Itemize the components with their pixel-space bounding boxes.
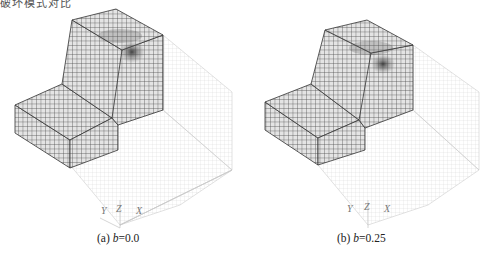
- axis-label-z: Z: [116, 203, 122, 214]
- caption-b: (b) b=0.25: [337, 232, 386, 244]
- caption-a-value: =0.0: [118, 232, 139, 244]
- axis-label-z: Z: [364, 201, 370, 212]
- damage-zone: [119, 41, 145, 63]
- axis-label-y: Y: [101, 205, 107, 216]
- caption-a: (a) b=0.0: [97, 232, 139, 244]
- damage-zone: [371, 54, 395, 74]
- mesh-model-b: [243, 0, 486, 253]
- caption-b-value: =0.25: [359, 232, 386, 244]
- caption-a-label: (a): [97, 232, 113, 244]
- axis-label-x: X: [136, 205, 142, 216]
- figure-a: Y Z X (a) b=0.0: [0, 0, 243, 253]
- axis-label-y: Y: [347, 203, 353, 214]
- mesh-model-a: [0, 0, 243, 253]
- figure-b: Y Z X (b) b=0.25: [243, 0, 486, 253]
- caption-b-label: (b): [337, 232, 353, 244]
- axis-label-x: X: [384, 203, 390, 214]
